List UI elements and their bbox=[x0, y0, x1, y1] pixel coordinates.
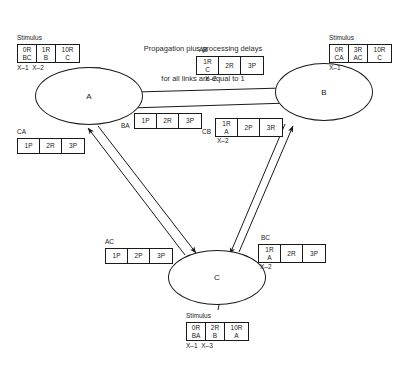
node-b[interactable]: B bbox=[275, 63, 373, 121]
stimulus-c-cell-1: 2R B bbox=[206, 323, 225, 340]
node-c[interactable]: C bbox=[168, 250, 266, 305]
cell-bottom: CA bbox=[334, 54, 343, 62]
stimulus-b-cell-0: 0R CA bbox=[330, 45, 349, 62]
link-ab-cell-0: 1R C bbox=[197, 57, 219, 74]
link-ba-cell-0: 1P bbox=[135, 114, 157, 128]
cell-bottom: AC bbox=[353, 54, 362, 62]
cell-top: 1R bbox=[265, 246, 273, 254]
stimulus-c-cell-2: 10R A bbox=[225, 323, 248, 340]
diagram-canvas: Propagation plus processing delays for a… bbox=[0, 0, 406, 365]
link-cb-cell-0: 1R A bbox=[216, 119, 238, 136]
link-ca-cell-1: 2R bbox=[40, 139, 62, 153]
cell-top: 3P bbox=[248, 62, 256, 70]
cell-bottom: B bbox=[44, 54, 48, 62]
cell-bottom: A bbox=[267, 254, 271, 262]
link-ca-label: CA bbox=[17, 128, 26, 136]
cell-top: 1P bbox=[113, 252, 121, 260]
cell-bottom: BC bbox=[22, 54, 31, 62]
link-cb-cell-2: 3R bbox=[260, 119, 282, 136]
link-ba-cell-2: 3P bbox=[179, 114, 201, 128]
link-bc-cell-0: 1R A bbox=[259, 245, 281, 262]
link-bc-label: BC bbox=[261, 234, 270, 242]
link-bc-times: X–2 bbox=[260, 263, 272, 271]
link-cb-times: X–2 bbox=[217, 137, 229, 145]
edge-c-to-a bbox=[88, 128, 185, 255]
link-ab-box[interactable]: 1R C 2R 3P bbox=[196, 56, 264, 75]
cell-top: 1R bbox=[42, 46, 50, 54]
node-c-label: C bbox=[214, 273, 220, 282]
cell-top: 2R bbox=[287, 250, 295, 258]
link-ca-cell-0: 1P bbox=[18, 139, 40, 153]
cell-bottom: C bbox=[65, 54, 70, 62]
stimulus-c-times: X–1 X–3 bbox=[186, 342, 213, 350]
link-ab-label: AB bbox=[199, 46, 208, 54]
edge-a-to-c bbox=[98, 126, 196, 253]
cell-top: 10R bbox=[231, 324, 243, 332]
cell-bottom: C bbox=[377, 54, 382, 62]
link-ac-cell-2: 3P bbox=[150, 249, 172, 263]
link-ac-box[interactable]: 1P 2P 3P bbox=[105, 248, 173, 264]
link-ab-cell-1: 2R bbox=[219, 57, 241, 74]
cell-bottom: A bbox=[234, 332, 238, 340]
link-ac-cell-1: 2P bbox=[128, 249, 150, 263]
stimulus-b-box[interactable]: 0R CA 3R AC 10R C bbox=[329, 44, 392, 63]
edge-b-to-c bbox=[230, 124, 285, 254]
link-ca-box[interactable]: 1P 2R 3P bbox=[17, 138, 85, 154]
node-b-label: B bbox=[321, 88, 326, 97]
stimulus-b-cell-2: 10R C bbox=[368, 45, 391, 62]
cell-bottom: C bbox=[205, 66, 210, 74]
stimulus-c-heading: Stimulus bbox=[186, 312, 211, 320]
stimulus-c-box[interactable]: 0R BA 2R B 10R A bbox=[186, 322, 249, 341]
cell-top: 1P bbox=[25, 142, 33, 150]
link-ab-times: X–2 bbox=[205, 75, 217, 83]
cell-top: 3P bbox=[69, 142, 77, 150]
link-cb-box[interactable]: 1R A 2P 3R bbox=[215, 118, 283, 137]
cell-top: 2R bbox=[211, 324, 219, 332]
stimulus-a-cell-2: 10R C bbox=[56, 45, 79, 62]
node-a-label: A bbox=[86, 92, 91, 101]
cell-top: 3P bbox=[310, 250, 318, 258]
link-ba-label: BA bbox=[121, 122, 130, 130]
stimulus-a-box[interactable]: 0R BC 1R B 10R C bbox=[17, 44, 80, 63]
cell-top: 3R bbox=[354, 46, 362, 54]
link-ac-cell-0: 1P bbox=[106, 249, 128, 263]
node-a[interactable]: A bbox=[35, 67, 143, 125]
link-ab-cell-2: 3P bbox=[241, 57, 263, 74]
link-ba-cell-1: 2R bbox=[157, 114, 179, 128]
cell-top: 2R bbox=[46, 142, 54, 150]
cell-bottom: BA bbox=[192, 332, 201, 340]
cell-bottom: A bbox=[224, 128, 228, 136]
stimulus-b-times: X–1 bbox=[329, 64, 341, 72]
cell-top: 3R bbox=[267, 124, 275, 132]
cell-top: 0R bbox=[192, 324, 200, 332]
stimulus-b-cell-1: 3R AC bbox=[349, 45, 368, 62]
cell-top: 3P bbox=[186, 117, 194, 125]
stimulus-c-cell-0: 0R BA bbox=[187, 323, 206, 340]
link-ac-label: AC bbox=[105, 238, 114, 246]
link-cb-cell-1: 2P bbox=[238, 119, 260, 136]
cell-top: 2R bbox=[225, 62, 233, 70]
stimulus-a-times: X–1 X–2 bbox=[17, 64, 44, 72]
link-bc-cell-1: 2R bbox=[281, 245, 303, 262]
cell-top: 1R bbox=[222, 120, 230, 128]
cell-top: 1R bbox=[203, 58, 211, 66]
stimulus-a-cell-1: 1R B bbox=[37, 45, 56, 62]
stimulus-b-heading: Stimulus bbox=[329, 34, 354, 42]
cell-bottom: B bbox=[213, 332, 217, 340]
cell-top: 2P bbox=[135, 252, 143, 260]
cell-top: 0R bbox=[335, 46, 343, 54]
cell-top: 10R bbox=[62, 46, 74, 54]
link-bc-cell-2: 3P bbox=[303, 245, 325, 262]
link-bc-box[interactable]: 1R A 2R 3P bbox=[258, 244, 326, 263]
stimulus-a-cell-0: 0R BC bbox=[18, 45, 37, 62]
cell-top: 0R bbox=[23, 46, 31, 54]
link-ca-cell-2: 3P bbox=[62, 139, 84, 153]
link-cb-label: CB bbox=[202, 128, 211, 136]
cell-top: 2R bbox=[163, 117, 171, 125]
cell-top: 1P bbox=[142, 117, 150, 125]
link-ba-box[interactable]: 1P 2R 3P bbox=[134, 113, 202, 129]
cell-top: 3P bbox=[157, 252, 165, 260]
cell-top: 2P bbox=[245, 124, 253, 132]
stimulus-a-heading: Stimulus bbox=[17, 34, 42, 42]
cell-top: 10R bbox=[374, 46, 386, 54]
